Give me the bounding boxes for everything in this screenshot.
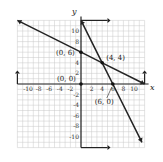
arrowhead-icon [142,70,147,73]
y-tick-label: -6 [73,112,79,119]
x-axis-label: x [150,83,155,92]
arrowhead-icon [108,18,111,23]
y-tick-label: 8 [75,38,79,45]
point-label: (0, 6) [56,49,75,57]
y-axis-label: y [71,7,77,16]
x-tick-label: 2 [90,85,94,92]
line-series [81,20,142,142]
point-label: (6, 0) [95,98,114,106]
arrowhead-icon [15,70,20,73]
y-tick-label: -8 [73,122,79,129]
x-tick-label: -8 [36,85,42,92]
point-label: (4, 4) [106,54,125,62]
coordinate-plane: -10-8-6-4-224681010842-2-4-6-8-10 (0, 6)… [0,0,163,162]
x-tick-label: 8 [121,85,125,92]
arrowhead-icon [108,145,111,150]
y-tick-label: 10 [71,27,79,34]
y-tick-label: -2 [73,91,79,98]
point-marker [79,50,83,54]
point-marker [79,82,83,86]
point-label: (0, 0) [57,75,76,83]
y-tick-label: -4 [73,101,79,108]
y-tick-label: -10 [69,133,79,140]
point-marker [111,82,115,86]
x-tick-label: -10 [23,85,33,92]
x-tick-label: -6 [46,85,52,92]
x-tick-label: -4 [57,85,63,92]
x-tick-label: 10 [130,85,138,92]
x-tick-label: 4 [100,85,104,92]
point-marker [100,61,104,65]
y-tick-label: 4 [75,59,79,66]
